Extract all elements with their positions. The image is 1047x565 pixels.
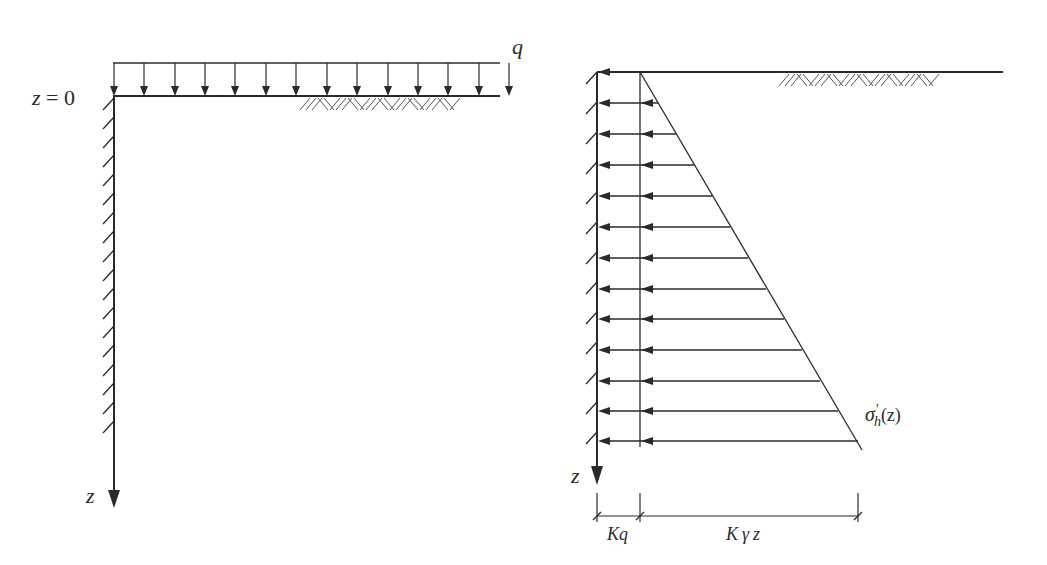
load-arrow-icon: [475, 63, 483, 96]
stress-subscript: h: [874, 414, 881, 429]
pressure-arrow-icon: [598, 315, 784, 323]
pressure-arrow-icon: [598, 223, 730, 231]
right-panel: σ'h(z) z Kq Kγz: [570, 68, 1003, 544]
soil-hatch-icon: [779, 74, 939, 86]
left-panel: q z = 0 z: [31, 34, 523, 508]
load-arrow-icon: [110, 63, 118, 96]
depth-axis-label: z: [570, 463, 580, 488]
pressure-arrow-icon: [598, 407, 838, 415]
earth-pressure-diagram: q z = 0 z: [0, 0, 1047, 565]
dim-k: K: [725, 524, 739, 544]
stress-label: σ'h(z): [865, 402, 901, 429]
soil-hatch-icon: [300, 98, 460, 110]
origin-label: z = 0: [31, 85, 75, 110]
surcharge-label: q: [512, 34, 523, 59]
load-arrow-icon: [444, 63, 452, 96]
wall-hatch-icon: [586, 72, 597, 444]
depth-axis-arrowhead-icon: [591, 466, 603, 485]
load-arrow-icon: [414, 63, 422, 96]
pressure-arrow-icon: [598, 68, 610, 76]
load-arrow-icon: [323, 63, 331, 96]
pressure-arrow-icon: [598, 437, 858, 445]
pressure-arrow-icon: [598, 130, 676, 138]
load-arrow-icon: [171, 63, 179, 96]
pressure-arrow-icon: [598, 285, 766, 293]
origin-eq: = 0: [41, 85, 75, 110]
load-arrow-icon: [262, 63, 270, 96]
wall-hatch-icon: [103, 98, 114, 433]
load-arrow-icon: [201, 63, 209, 96]
pressure-arrow-icon: [598, 346, 802, 354]
pressure-arrow-icon: [598, 161, 694, 169]
dim-z: z: [752, 524, 760, 544]
pressure-arrow-icon: [598, 254, 748, 262]
load-arrow-icon: [231, 63, 239, 96]
dim-gamma: γ: [742, 524, 750, 544]
surcharge-arrows: [110, 63, 513, 96]
pressure-arrows: [598, 68, 858, 445]
surcharge-pressure-dimension: Kq: [606, 524, 628, 544]
load-arrow-icon: [292, 63, 300, 96]
depth-axis-arrowhead-icon: [108, 490, 120, 508]
load-arrow-icon: [384, 63, 392, 96]
load-arrow-icon: [140, 63, 148, 96]
pressure-arrow-icon: [598, 192, 712, 200]
origin-var: z: [31, 85, 41, 110]
soil-pressure-dimension: Kγz: [725, 524, 760, 544]
stress-argument: (z): [881, 405, 901, 426]
load-arrow-icon: [353, 63, 361, 96]
load-arrow-icon: [505, 63, 513, 96]
dimension-lines: [593, 493, 862, 522]
depth-axis-label: z: [85, 483, 95, 508]
pressure-arrow-icon: [598, 99, 658, 107]
soil-pressure-envelope: [640, 72, 862, 450]
pressure-arrow-icon: [598, 377, 820, 385]
